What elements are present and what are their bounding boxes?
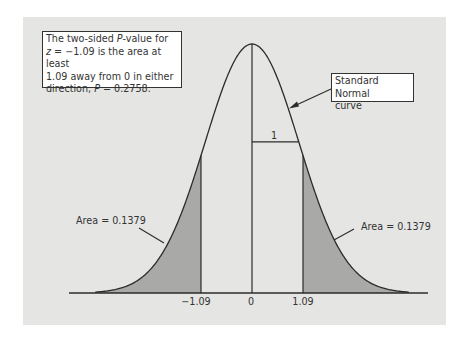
pvalue-line-2: z = −1.09 is the area at least [46,46,178,71]
pvalue-line-4: direction, P = 0.2758. [46,83,178,96]
tick-label-zero: 0 [248,296,254,307]
curve-label-line-1: Standard Normal [335,75,410,100]
tick-label-neg: −1.09 [181,296,210,307]
text: direction, [46,83,94,94]
text: The two-sided [46,33,117,44]
left-area-leader [139,228,164,243]
pvalue-line-3: 1.09 away from 0 in either [46,71,178,84]
right-area-label: Area = 0.1379 [361,221,431,232]
tick-label-pos: 1.09 [292,296,313,307]
standard-normal-curve-label: Standard Normal curve [331,73,414,102]
arrowhead-icon [289,102,299,109]
pvalue-line-1: The two-sided P-value for [46,33,178,46]
left-area-label: Area = 0.1379 [76,215,146,226]
text: = −1.09 is the area at least [46,46,161,70]
sd-marker-label: 1 [271,130,277,141]
text: = 0.2758. [100,83,151,94]
curve-label-line-2: curve [335,100,410,113]
p-value-explanation-box: The two-sided P-value for z = −1.09 is t… [42,31,182,88]
right-area-leader [334,229,354,240]
text: -value for [123,33,169,44]
